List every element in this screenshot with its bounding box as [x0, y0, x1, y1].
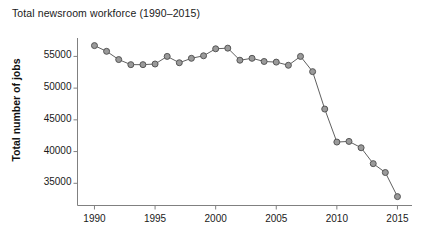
- y-axis-ticks: [74, 56, 78, 183]
- data-point-marker: [310, 69, 316, 75]
- data-line-series: [94, 46, 397, 197]
- data-point-markers: [91, 43, 400, 200]
- data-point-marker: [298, 53, 304, 59]
- data-point-marker: [128, 62, 134, 68]
- x-axis-ticks: [94, 206, 397, 210]
- data-point-marker: [370, 161, 376, 167]
- data-point-marker: [334, 139, 340, 145]
- data-point-marker: [152, 61, 158, 67]
- x-tick-label: 2015: [375, 213, 419, 224]
- y-tick-label: 40000: [22, 145, 72, 156]
- data-point-marker: [116, 57, 122, 63]
- data-point-marker: [237, 57, 243, 63]
- data-point-marker: [273, 59, 279, 65]
- x-tick-label: 2010: [315, 213, 359, 224]
- x-tick-label: 2005: [254, 213, 298, 224]
- y-tick-label: 55000: [22, 49, 72, 60]
- data-point-marker: [104, 48, 110, 54]
- data-point-marker: [201, 53, 207, 59]
- data-point-marker: [285, 62, 291, 68]
- data-point-marker: [358, 145, 364, 151]
- chart-figure: Total newsroom workforce (1990–2015) Tot…: [0, 0, 436, 234]
- data-point-marker: [176, 60, 182, 66]
- x-tick-label: 2000: [194, 213, 238, 224]
- data-point-marker: [91, 43, 97, 49]
- y-tick-label: 35000: [22, 176, 72, 187]
- x-tick-label: 1990: [72, 213, 116, 224]
- x-tick-label: 1995: [133, 213, 177, 224]
- data-point-marker: [346, 138, 352, 144]
- y-tick-label: 45000: [22, 113, 72, 124]
- data-point-marker: [322, 106, 328, 112]
- data-point-marker: [188, 55, 194, 61]
- data-point-marker: [249, 55, 255, 61]
- data-point-marker: [394, 194, 400, 200]
- data-point-marker: [164, 53, 170, 59]
- data-point-marker: [213, 46, 219, 52]
- data-point-marker: [261, 58, 267, 64]
- data-point-marker: [140, 62, 146, 68]
- data-point-marker: [382, 170, 388, 176]
- y-tick-label: 50000: [22, 81, 72, 92]
- data-point-marker: [225, 45, 231, 51]
